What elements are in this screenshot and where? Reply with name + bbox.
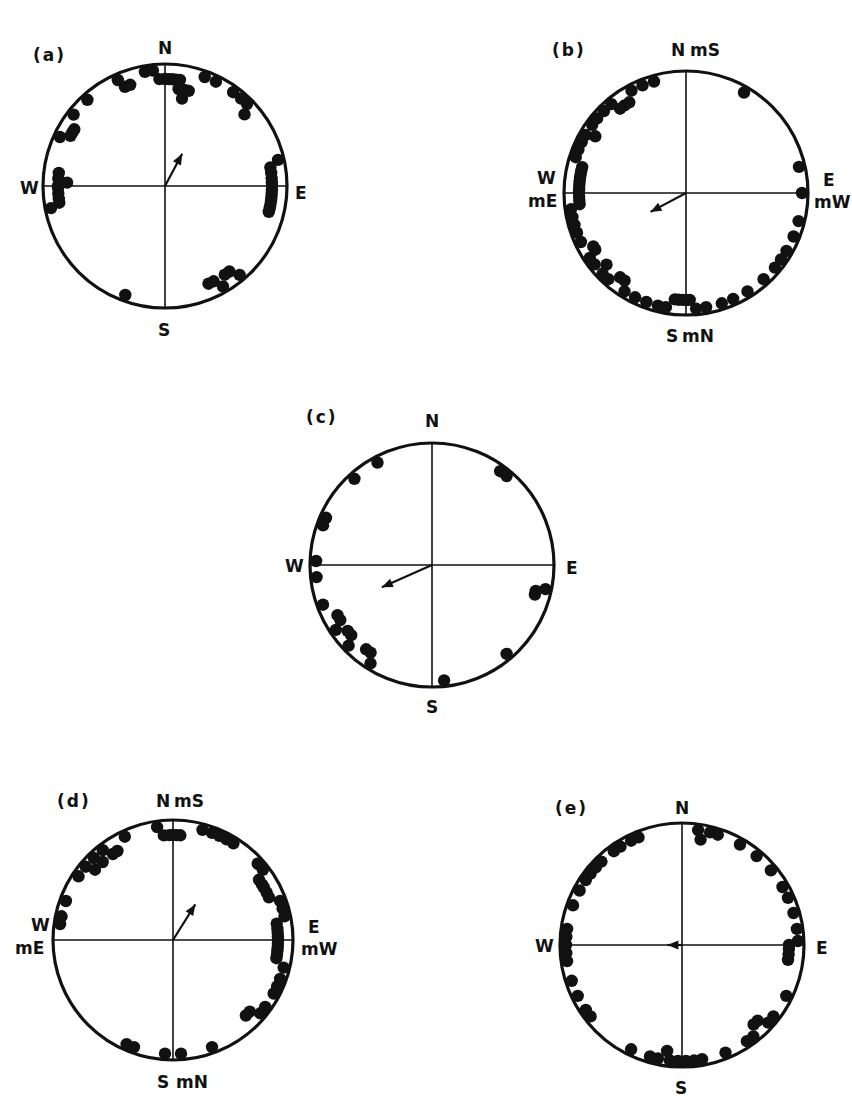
- data-point: [787, 230, 799, 242]
- data-point: [719, 1046, 731, 1058]
- data-point: [310, 571, 322, 583]
- data-point: [762, 1016, 774, 1028]
- circle-diagram-c: [310, 443, 554, 687]
- north-magnetic-label: mS: [690, 42, 720, 59]
- data-point: [254, 1007, 266, 1019]
- north-label: N: [156, 793, 170, 810]
- data-point: [561, 923, 573, 935]
- west-label: W: [535, 938, 554, 955]
- data-point: [614, 271, 626, 283]
- data-point: [618, 285, 630, 297]
- data-point: [566, 975, 578, 987]
- data-point: [625, 1043, 637, 1055]
- data-point: [529, 588, 541, 600]
- diagram-canvas: [0, 0, 852, 1096]
- east-magnetic-label: mW: [814, 194, 850, 211]
- data-point: [791, 923, 803, 935]
- south-label: S: [675, 1080, 687, 1096]
- panel-label: (d): [57, 793, 91, 810]
- panel-label: (b): [552, 42, 586, 59]
- data-point: [734, 838, 746, 850]
- data-point: [782, 892, 794, 904]
- panel-label: (c): [306, 409, 338, 426]
- west-label: W: [20, 180, 39, 197]
- east-magnetic-label: mW: [301, 941, 337, 958]
- data-point: [636, 79, 648, 91]
- data-point: [776, 881, 788, 893]
- data-point: [765, 864, 777, 876]
- data-point: [219, 269, 231, 281]
- data-point: [331, 609, 343, 621]
- data-point: [210, 76, 222, 88]
- data-point: [782, 954, 794, 966]
- east-label: E: [295, 185, 307, 202]
- circle-diagram-a: [43, 64, 287, 308]
- data-point: [124, 79, 136, 91]
- south-magnetic-label: mN: [682, 328, 714, 345]
- data-point: [793, 161, 805, 173]
- data-point: [738, 86, 750, 98]
- west-magnetic-label: mE: [15, 940, 44, 957]
- data-point: [750, 850, 762, 862]
- data-point: [792, 215, 804, 227]
- west-label: W: [537, 170, 556, 187]
- data-point: [277, 961, 289, 973]
- data-point: [438, 674, 450, 686]
- circle-diagram-d: [53, 820, 293, 1060]
- data-point: [589, 130, 601, 142]
- data-point: [159, 1048, 171, 1060]
- data-point: [769, 261, 781, 273]
- data-point: [97, 856, 109, 868]
- data-point: [625, 84, 637, 96]
- data-point: [238, 108, 250, 120]
- data-point: [310, 555, 322, 567]
- east-label: E: [823, 172, 835, 189]
- east-label: E: [308, 919, 320, 936]
- data-point: [55, 910, 67, 922]
- arrowhead-icon: [667, 941, 678, 950]
- west-label: W: [285, 558, 304, 575]
- north-label: N: [671, 42, 685, 59]
- data-point: [716, 297, 728, 309]
- data-point: [263, 206, 275, 218]
- data-point: [741, 285, 753, 297]
- data-point: [53, 167, 65, 179]
- data-point: [240, 1009, 252, 1021]
- data-point: [780, 990, 792, 1002]
- west-label: W: [31, 917, 50, 934]
- data-point: [371, 456, 383, 468]
- south-label: S: [158, 322, 170, 339]
- south-label: S: [157, 1074, 169, 1091]
- data-point: [183, 85, 195, 97]
- north-label: N: [425, 413, 439, 430]
- north-label: N: [158, 40, 172, 57]
- data-point: [727, 293, 739, 305]
- south-magnetic-label: mN: [176, 1074, 208, 1091]
- east-label: E: [566, 560, 578, 577]
- circle-diagram-e: [560, 823, 804, 1067]
- data-point: [202, 278, 214, 290]
- data-point: [623, 96, 635, 108]
- panel-label: (a): [33, 47, 66, 64]
- data-point: [54, 131, 66, 143]
- data-point: [119, 289, 131, 301]
- arrowhead-icon: [382, 579, 394, 588]
- data-point: [317, 599, 329, 611]
- data-point: [573, 884, 585, 896]
- arrowhead-icon: [186, 904, 196, 916]
- data-point: [241, 98, 253, 110]
- data-point: [227, 837, 239, 849]
- data-point: [632, 831, 644, 843]
- data-point: [348, 473, 360, 485]
- data-point: [342, 625, 354, 637]
- data-point: [567, 899, 579, 911]
- data-point: [320, 512, 332, 524]
- north-label: N: [675, 800, 689, 817]
- data-point: [595, 855, 607, 867]
- south-label: S: [426, 699, 438, 716]
- data-point: [500, 648, 512, 660]
- west-magnetic-label: mE: [528, 193, 557, 210]
- data-point: [757, 273, 769, 285]
- data-point: [120, 1038, 132, 1050]
- data-point: [119, 831, 131, 843]
